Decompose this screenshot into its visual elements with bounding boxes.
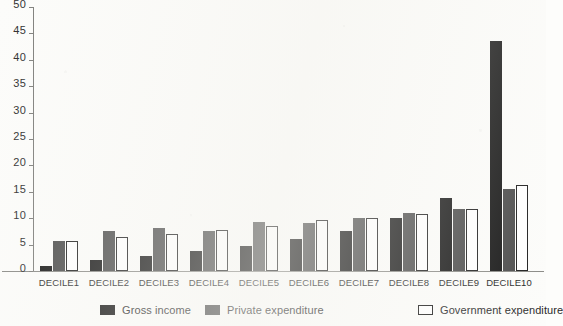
bar-government-expenditure	[216, 230, 229, 271]
bar-group	[240, 7, 279, 271]
legend-item-private-expenditure: Private expenditure	[205, 304, 324, 316]
x-axis-label: DECILE7	[334, 277, 384, 288]
y-axis-tick: 40	[0, 60, 33, 61]
y-axis-tick-mark	[29, 7, 33, 8]
bar-government-expenditure	[466, 209, 479, 271]
y-axis-tick: 25	[0, 139, 33, 140]
bar-private-expenditure	[103, 231, 116, 271]
y-axis-tick-mark	[29, 113, 33, 114]
bar-private-expenditure	[453, 209, 466, 271]
bar-government-expenditure	[516, 185, 529, 271]
bar-private-expenditure	[303, 223, 316, 271]
y-axis-tick: 20	[0, 165, 33, 166]
bar-government-expenditure	[366, 218, 379, 271]
y-axis-tick-mark	[29, 218, 33, 219]
y-axis-tick-label: 50	[13, 0, 26, 10]
bar-private-expenditure	[353, 218, 366, 271]
x-axis-label: DECILE2	[84, 277, 134, 288]
bar-gross-income	[440, 198, 453, 271]
y-axis-tick: 30	[0, 113, 33, 114]
y-axis-tick-mark	[29, 139, 33, 140]
x-axis-label: DECILE4	[184, 277, 234, 288]
bar-government-expenditure	[316, 220, 329, 271]
y-axis-tick: 50	[0, 7, 33, 8]
y-axis-tick-label: 15	[13, 184, 26, 195]
y-axis-tick-mark	[29, 60, 33, 61]
bar-private-expenditure	[403, 213, 416, 271]
y-axis-tick-label: 10	[13, 210, 26, 221]
bar-group	[440, 7, 479, 271]
x-axis-label: DECILE1	[34, 277, 84, 288]
y-axis-tick: 5	[0, 245, 33, 246]
bar-gross-income	[490, 41, 503, 271]
y-axis-tick-mark	[29, 86, 33, 87]
chart-legend: Gross incomePrivate expenditureGovernmen…	[0, 300, 546, 322]
bar-gross-income	[40, 266, 53, 271]
bar-gross-income	[390, 218, 403, 271]
legend-item-gross-income: Gross income	[100, 304, 191, 316]
y-axis-tick-label: 0	[20, 263, 26, 274]
bar-private-expenditure	[53, 241, 66, 271]
legend-item-government-expenditure: Government expenditure	[418, 304, 563, 316]
legend-label: Private expenditure	[227, 304, 324, 316]
x-axis-label: DECILE8	[384, 277, 434, 288]
x-axis-label: DECILE9	[434, 277, 484, 288]
bar-gross-income	[140, 256, 153, 271]
bar-group	[90, 7, 129, 271]
bar-gross-income	[90, 260, 103, 271]
y-axis-tick: 10	[0, 218, 33, 219]
bar-private-expenditure	[153, 228, 166, 271]
bars-layer: DECILE1DECILE2DECILE3DECILE4DECILE5DECIL…	[34, 0, 538, 326]
y-axis-tick-label: 35	[13, 78, 26, 89]
bar-government-expenditure	[416, 214, 429, 271]
bar-government-expenditure	[266, 226, 279, 271]
bar-gross-income	[290, 239, 303, 271]
x-axis-label: DECILE5	[234, 277, 284, 288]
y-axis-tick: 15	[0, 192, 33, 193]
bar-group	[340, 7, 379, 271]
bar-gross-income	[190, 251, 203, 271]
legend-swatch-gross-income	[100, 305, 115, 315]
y-axis-tick-label: 20	[13, 157, 26, 168]
y-axis-tick-mark	[29, 271, 33, 272]
bar-group	[140, 7, 179, 271]
bar-government-expenditure	[166, 234, 179, 271]
y-axis-tick-mark	[29, 245, 33, 246]
bar-group	[390, 7, 429, 271]
bar-group	[290, 7, 329, 271]
y-axis-tick-label: 5	[20, 237, 26, 248]
y-axis-tick: 0	[0, 271, 33, 272]
y-axis-tick-label: 30	[13, 105, 26, 116]
legend-swatch-private-expenditure	[205, 305, 220, 315]
y-axis-tick-mark	[29, 33, 33, 34]
bar-group	[190, 7, 229, 271]
bar-group	[40, 7, 79, 271]
x-axis-label: DECILE10	[484, 277, 534, 288]
y-axis-tick-label: 25	[13, 131, 26, 142]
x-axis-label: DECILE6	[284, 277, 334, 288]
bar-group	[490, 7, 529, 271]
y-axis-tick-mark	[29, 165, 33, 166]
bar-private-expenditure	[503, 189, 516, 271]
bar-government-expenditure	[116, 237, 129, 271]
legend-label: Government expenditure	[440, 304, 563, 316]
bar-gross-income	[340, 231, 353, 271]
legend-label: Gross income	[122, 304, 191, 316]
bar-private-expenditure	[203, 231, 216, 271]
bar-private-expenditure	[253, 222, 266, 271]
bar-government-expenditure	[66, 241, 79, 271]
x-axis-label: DECILE3	[134, 277, 184, 288]
bar-gross-income	[240, 246, 253, 271]
y-axis-tick: 35	[0, 86, 33, 87]
legend-swatch-government-expenditure	[418, 305, 433, 315]
y-axis-tick: 45	[0, 33, 33, 34]
y-axis-tick-label: 45	[13, 25, 26, 36]
y-axis-tick-mark	[29, 192, 33, 193]
y-axis-tick-label: 40	[13, 52, 26, 63]
